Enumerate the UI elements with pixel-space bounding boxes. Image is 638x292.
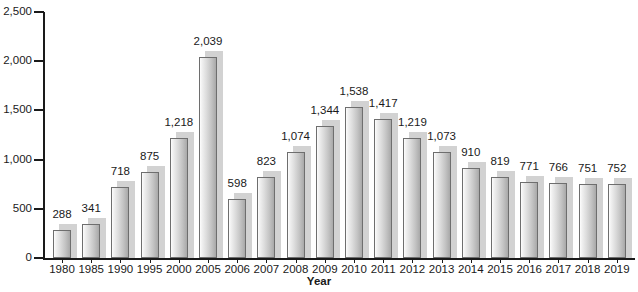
y-axis-line (43, 12, 45, 259)
x-axis-tick-label: 2005 (192, 264, 224, 276)
bar-value-label: 1,538 (334, 86, 374, 98)
x-axis-tick-label: 1980 (46, 264, 78, 276)
y-axis-tick-label: 1,500 (0, 104, 32, 116)
bar[interactable] (374, 119, 392, 258)
bar-value-label: 1,218 (159, 117, 199, 129)
x-axis-tick-label: 2015 (484, 264, 516, 276)
bar[interactable] (433, 152, 451, 258)
bar-value-label: 341 (71, 203, 111, 215)
bar[interactable] (316, 126, 334, 258)
x-axis-tick-label: 2010 (338, 264, 370, 276)
bar[interactable] (345, 107, 363, 258)
x-axis-tick-label: 2016 (513, 264, 545, 276)
bar[interactable] (579, 184, 597, 258)
bar-value-label: 823 (246, 156, 286, 168)
y-axis-tick-label: 2,000 (0, 55, 32, 67)
bar-value-label: 1,417 (363, 98, 403, 110)
x-axis-tick-label: 2012 (396, 264, 428, 276)
bar[interactable] (462, 168, 480, 258)
x-axis-tick-label: 2000 (163, 264, 195, 276)
x-axis-tick-label: 2008 (280, 264, 312, 276)
bar-value-label: 2,039 (188, 36, 228, 48)
bar[interactable] (170, 138, 188, 258)
y-axis-tick (34, 11, 44, 13)
bar[interactable] (608, 184, 626, 258)
bar-value-label: 1,073 (422, 131, 462, 143)
bar[interactable] (403, 138, 421, 258)
x-axis-tick-label: 1995 (134, 264, 166, 276)
bar[interactable] (82, 224, 100, 258)
y-axis-tick-label: 0 (0, 252, 32, 264)
x-axis-title: Year (0, 276, 638, 288)
bar[interactable] (520, 182, 538, 258)
bar-value-label: 875 (130, 151, 170, 163)
x-axis-line (43, 258, 635, 260)
y-axis-tick-label: 1,000 (0, 154, 32, 166)
bar[interactable] (287, 152, 305, 258)
x-axis-tick-label: 2019 (601, 264, 633, 276)
bar[interactable] (257, 177, 275, 258)
bar[interactable] (491, 177, 509, 258)
x-axis-tick-label: 1990 (104, 264, 136, 276)
bar-value-label: 1,344 (305, 105, 345, 117)
bar[interactable] (53, 230, 71, 258)
bar-value-label: 1,219 (392, 117, 432, 129)
x-axis-tick-label: 2018 (572, 264, 604, 276)
bar[interactable] (111, 187, 129, 258)
y-axis-tick (34, 109, 44, 111)
x-axis-tick-label: 2014 (455, 264, 487, 276)
y-axis-tick-label: 2,500 (0, 6, 32, 18)
x-axis-tick-label: 2013 (426, 264, 458, 276)
bar-value-label: 718 (100, 166, 140, 178)
bar[interactable] (549, 183, 567, 258)
y-axis-tick-label: 500 (0, 203, 32, 215)
bar-value-label: 1,074 (276, 131, 316, 143)
x-axis-tick-label: 2009 (309, 264, 341, 276)
x-axis-tick-label: 2011 (367, 264, 399, 276)
x-axis-tick-label: 2007 (250, 264, 282, 276)
bar[interactable] (228, 199, 246, 258)
bar-value-label: 598 (217, 178, 257, 190)
x-axis-tick-label: 2017 (542, 264, 574, 276)
x-axis-tick-label: 1985 (75, 264, 107, 276)
y-axis-tick (34, 60, 44, 62)
bar-value-label: 752 (597, 163, 637, 175)
bar-chart: 05001,0001,5002,0002,500 2883417188751,2… (0, 0, 638, 292)
x-axis-tick-label: 2006 (221, 264, 253, 276)
y-axis-tick (34, 159, 44, 161)
bar[interactable] (141, 172, 159, 258)
bar[interactable] (199, 57, 217, 258)
